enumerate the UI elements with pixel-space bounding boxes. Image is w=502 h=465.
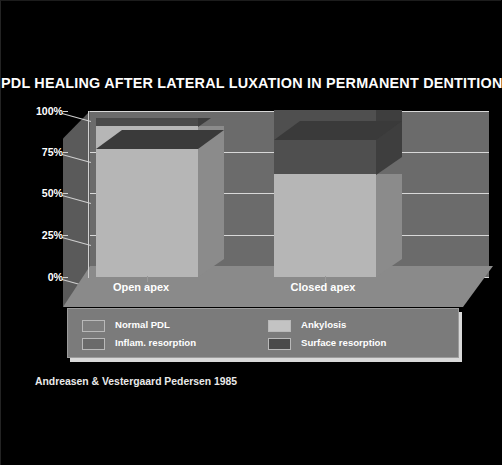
y-tick-label-75: 75% [42,146,63,158]
bar-closed-apex-side-surface-resorption [376,110,402,175]
y-axis-line [88,111,89,278]
bar-closed-apex-segment-surface-resorption [274,110,376,174]
legend-swatch-surface-resorption [268,338,291,350]
legend-item-surface-resorption[interactable]: Surface resorption [268,337,438,350]
legend-item-normal-pdl[interactable]: Normal PDL [82,319,252,332]
y-tick-label-50: 50% [42,187,63,199]
legend-label-normal-pdl: Normal PDL [115,319,170,330]
legend-item-inflam-resorption[interactable]: Inflam. resorption [82,337,252,350]
y-axis: 100% 75% 50% 25% 0% [27,109,63,291]
bar-closed-apex-segment-normal-pdl [274,173,376,277]
chart-plot-area: 100% 75% 50% 25% 0% [27,109,472,291]
x-axis-label-closed-apex: Closed apex [263,281,383,293]
legend-swatch-ankylosis [268,320,291,332]
legend-label-surface-resorption: Surface resorption [301,337,386,348]
legend-swatch-normal-pdl [82,320,105,332]
bar-open-apex-side-normal-pdl [198,126,224,277]
y-tick-label-25: 25% [42,229,63,241]
legend-swatch-inflam-resorption [82,338,105,350]
x-axis-label-open-apex: Open apex [81,281,201,293]
y-tick-label-0: 0% [48,271,63,283]
legend-label-ankylosis: Ankylosis [301,319,346,330]
legend-label-inflam-resorption: Inflam. resorption [115,337,196,348]
chart-legend: Normal PDL Ankylosis Inflam. resorption … [67,308,459,358]
chart-title: PDL HEALING AFTER LATERAL LUXATION IN PE… [1,75,502,91]
bar-closed-apex-side-normal-pdl [376,174,402,277]
y-tick-label-100: 100% [36,105,63,117]
bar-open-apex-segment-surface-resorption [96,118,198,126]
legend-item-ankylosis[interactable]: Ankylosis [268,319,438,332]
source-citation: Andreasen & Vestergaard Pedersen 1985 [35,376,237,387]
